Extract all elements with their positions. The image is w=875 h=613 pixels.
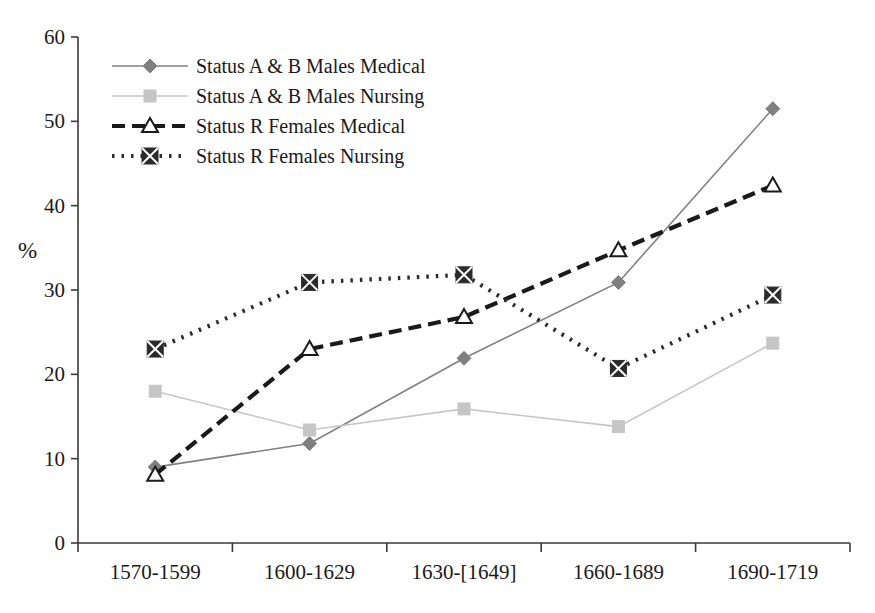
series-3 [147, 177, 781, 480]
data-point-marker [765, 177, 781, 191]
legend-label: Status A & B Males Nursing [196, 85, 424, 108]
x-axis-tick-label: 1600-1629 [264, 560, 355, 584]
legend-item-3: Status R Females Medical [112, 115, 406, 137]
x-axis-tick-label: 1660-1689 [573, 560, 664, 584]
x-axis-tick-label: 1570-1599 [110, 560, 201, 584]
data-point-marker [767, 337, 779, 349]
data-point-marker [303, 436, 317, 450]
y-axis-tick-label: 0 [55, 531, 66, 555]
y-axis-tick-label: 40 [44, 194, 65, 218]
x-axis-tick-label: 1690-1719 [727, 560, 818, 584]
marker-square [612, 421, 624, 433]
legend-label: Status R Females Medical [196, 115, 406, 137]
data-point-marker [610, 360, 626, 376]
legend-item-4: Status R Females Nursing [112, 145, 404, 168]
data-point-marker [144, 90, 156, 102]
y-axis-tick-label: 60 [44, 25, 65, 49]
series-line [155, 185, 773, 474]
data-point-marker [142, 148, 158, 164]
marker-diamond [143, 59, 157, 73]
marker-diamond [457, 351, 471, 365]
data-point-marker [147, 341, 163, 357]
marker-square [458, 403, 470, 415]
legend-label: Status R Females Nursing [196, 145, 404, 168]
y-axis-tick-label: 20 [44, 362, 65, 386]
y-axis-title: % [18, 238, 37, 263]
data-point-marker [149, 385, 161, 397]
marker-square [767, 337, 779, 349]
y-axis-tick-label: 50 [44, 109, 65, 133]
y-axis-tick-label: 10 [44, 447, 65, 471]
data-point-marker [612, 421, 624, 433]
data-point-marker [765, 287, 781, 303]
legend-item-2: Status A & B Males Nursing [112, 85, 424, 108]
x-axis-tick-label: 1630-[1649] [412, 560, 517, 584]
legend-label: Status A & B Males Medical [196, 55, 426, 77]
data-point-marker [456, 267, 472, 283]
marker-square [149, 385, 161, 397]
chart-canvas: 0102030405060 1570-15991600-16291630-[16… [0, 0, 875, 613]
legend-item-1: Status A & B Males Medical [112, 55, 426, 77]
marker-square [144, 90, 156, 102]
y-axis: 0102030405060 [44, 25, 78, 555]
data-point-marker [457, 351, 471, 365]
chart-legend: Status A & B Males MedicalStatus A & B M… [112, 55, 426, 168]
y-axis-tick-label: 30 [44, 278, 65, 302]
data-point-marker [143, 59, 157, 73]
data-point-marker [458, 403, 470, 415]
marker-square [304, 424, 316, 436]
data-point-marker [302, 274, 318, 290]
marker-triangle-open [765, 177, 781, 191]
x-axis: 1570-15991600-16291630-[1649]1660-168916… [78, 543, 850, 584]
data-point-marker [304, 424, 316, 436]
marker-diamond [303, 436, 317, 450]
line-chart: 0102030405060 1570-15991600-16291630-[16… [0, 0, 875, 613]
